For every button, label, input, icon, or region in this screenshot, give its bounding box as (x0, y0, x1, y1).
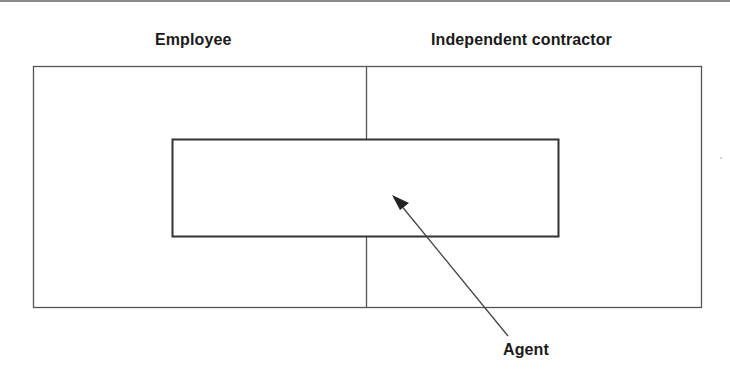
scan-artifact (720, 157, 722, 159)
agent-label: Agent (503, 341, 549, 359)
employment-diagram (0, 0, 730, 385)
agent-box (173, 140, 559, 237)
